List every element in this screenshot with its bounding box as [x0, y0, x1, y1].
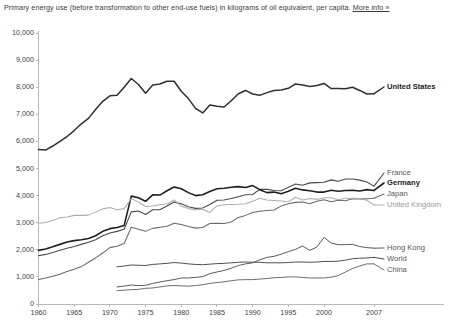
series-line-united-kingdom: [39, 197, 375, 223]
series-label-united-states[interactable]: United States: [387, 82, 436, 91]
leader-world: [374, 257, 384, 259]
y-tick-label: 8,000: [0, 83, 34, 91]
x-tick-label: 2000: [307, 309, 341, 317]
series-label-france[interactable]: France: [387, 168, 411, 177]
y-tick-label: 10,000: [0, 29, 34, 37]
x-tick-label: 1960: [22, 309, 56, 317]
leader-japan: [374, 194, 384, 198]
y-tick-label: 7,000: [0, 110, 34, 118]
series-label-hong-kong[interactable]: Hong Kong: [387, 243, 425, 252]
y-tick-label: 2,000: [0, 246, 34, 254]
x-tick-label: 1975: [129, 309, 163, 317]
series-label-germany[interactable]: Germany: [387, 178, 420, 187]
series-label-world[interactable]: World: [387, 254, 407, 263]
x-tick-label: 1980: [164, 309, 198, 317]
series-lines: [39, 79, 385, 291]
series-label-united-kingdom[interactable]: United Kingdom: [387, 200, 441, 209]
series-line-world: [117, 257, 374, 266]
leader-united-states: [374, 87, 384, 94]
x-tick-label: 2007: [357, 309, 391, 317]
leader-china: [374, 264, 384, 270]
y-tick-label: 1,000: [0, 273, 34, 281]
series-line-france: [39, 179, 375, 256]
y-tick-label: 0: [0, 300, 34, 308]
x-tick-label: 1995: [271, 309, 305, 317]
series-line-germany: [39, 186, 375, 251]
y-tick-label: 4,000: [0, 192, 34, 200]
series-label-japan[interactable]: Japan: [387, 189, 408, 198]
x-tick-label: 1965: [57, 309, 91, 317]
y-tick-label: 6,000: [0, 137, 34, 145]
x-tick-label: 1990: [236, 309, 270, 317]
x-tick-label: 1970: [93, 309, 127, 317]
y-tick-label: 5,000: [0, 165, 34, 173]
series-line-united-states: [39, 79, 375, 151]
x-tick-label: 1985: [200, 309, 234, 317]
series-label-china[interactable]: China: [387, 265, 407, 274]
series-line-china: [117, 264, 374, 291]
y-tick-label: 9,000: [0, 56, 34, 64]
energy-use-chart: Primary energy use (before transformatio…: [0, 0, 460, 322]
y-tick-label: 3,000: [0, 219, 34, 227]
